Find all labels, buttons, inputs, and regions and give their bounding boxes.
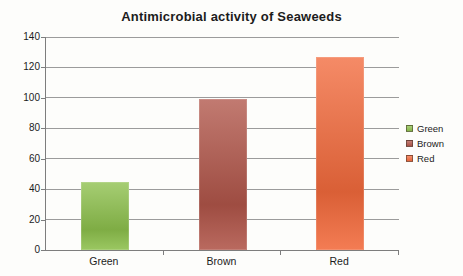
y-axis-label-0: 0 (0, 244, 40, 256)
y-axis-tick-140 (41, 37, 46, 38)
y-axis-tick-120 (41, 67, 46, 68)
legend-item-green: Green (406, 121, 444, 136)
y-axis-label-20: 20 (0, 214, 40, 226)
plot-area (45, 37, 399, 251)
chart-title: Antimicrobial activity of Seaweeds (0, 9, 463, 24)
legend-item-brown: Brown (406, 136, 444, 151)
y-axis-label-100: 100 (0, 92, 40, 104)
bar-red (316, 57, 364, 250)
x-axis-tick-1 (163, 251, 164, 255)
y-axis-tick-100 (41, 98, 46, 99)
x-axis-tick-2 (280, 251, 281, 255)
legend-label-brown: Brown (417, 138, 444, 149)
legend-label-red: Red (417, 153, 434, 164)
y-axis-label-120: 120 (0, 61, 40, 73)
x-axis-label-brown: Brown (182, 255, 262, 267)
bar-green (81, 182, 129, 250)
x-axis-label-green: Green (64, 255, 144, 267)
y-axis-tick-0 (41, 250, 46, 251)
legend-label-green: Green (417, 123, 443, 134)
y-axis-label-80: 80 (0, 122, 40, 134)
chart-figure: Antimicrobial activity of Seaweeds Green… (0, 0, 463, 276)
legend-swatch-red-icon (406, 155, 413, 162)
y-axis-tick-40 (41, 189, 46, 190)
legend-item-red: Red (406, 151, 444, 166)
legend-swatch-brown-icon (406, 140, 413, 147)
x-axis-label-red: Red (299, 255, 379, 267)
y-axis-tick-20 (41, 220, 46, 221)
legend-swatch-green-icon (406, 125, 413, 132)
legend: Green Brown Red (406, 121, 444, 166)
y-axis-label-140: 140 (0, 31, 40, 43)
bar-brown (199, 99, 247, 250)
y-axis-tick-60 (41, 159, 46, 160)
y-axis-label-40: 40 (0, 183, 40, 195)
gridline-140 (46, 37, 399, 38)
y-axis-tick-80 (41, 128, 46, 129)
x-axis-tick-3 (398, 251, 399, 255)
y-axis-label-60: 60 (0, 153, 40, 165)
